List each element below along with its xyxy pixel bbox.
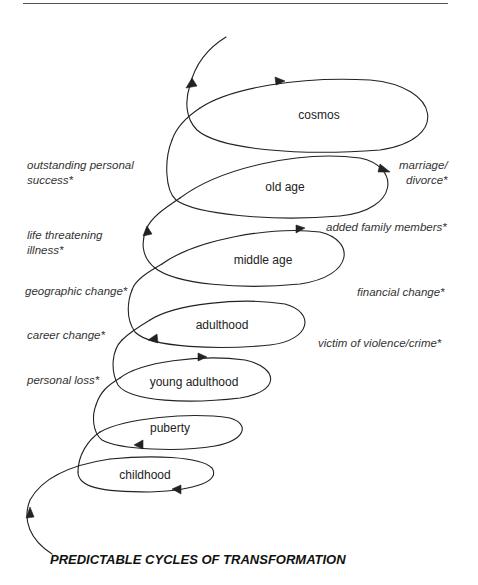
link-middle-old [146, 198, 180, 230]
stage-middle-age: middle age [234, 253, 293, 267]
stage-puberty: puberty [150, 421, 190, 435]
event-outstanding-success: outstanding personal success* [27, 158, 134, 188]
event-personal-loss: personal loss* [27, 373, 99, 388]
link-old-cosmos [172, 108, 200, 140]
event-financial-change: financial change* [357, 285, 445, 300]
arrowhead-icon [296, 225, 305, 233]
event-added-family-members: added family members* [326, 220, 447, 235]
event-life-threatening-illness: life threatening illness* [27, 228, 102, 258]
event-line: life threatening [27, 228, 102, 243]
stage-old-age: old age [265, 180, 304, 194]
stage-childhood: childhood [119, 468, 170, 482]
stage-adulthood: adulthood [196, 318, 249, 332]
event-line: divorce* [399, 173, 448, 188]
link-childhood-puberty [78, 432, 100, 472]
arrowhead-icon [198, 353, 207, 361]
diagram-title: PREDICTABLE CYCLES OF TRANSFORMATION [50, 552, 346, 567]
spiral-exit [190, 37, 226, 85]
event-line: illness* [27, 243, 102, 258]
arrowhead-icon [186, 78, 197, 88]
event-line: success* [27, 173, 134, 188]
event-line: career change* [27, 328, 105, 343]
event-victim-violence-crime: victim of violence/crime* [318, 336, 441, 351]
event-line: added family members* [326, 220, 447, 235]
event-line: outstanding personal [27, 158, 134, 173]
arrowhead-icon [143, 226, 152, 236]
event-line: financial change* [357, 285, 445, 300]
stage-cosmos: cosmos [298, 108, 339, 122]
spiral-tail [27, 459, 110, 554]
arrowhead-icon [172, 485, 181, 494]
loop-young-adulthood [113, 340, 271, 401]
stage-young-adulthood: young adulthood [150, 375, 239, 389]
event-career-change: career change* [27, 328, 105, 343]
event-line: marriage/ [399, 158, 448, 173]
event-marriage-divorce: marriage/ divorce* [399, 158, 448, 188]
arrowhead-icon [378, 164, 390, 172]
link-adulthood-middle [132, 264, 162, 290]
arrowhead-icon [148, 334, 158, 343]
event-line: personal loss* [27, 373, 99, 388]
link-young-adulthood [122, 320, 150, 340]
event-line: geographic change* [25, 284, 127, 299]
event-geographic-change: geographic change* [25, 284, 127, 299]
event-line: victim of violence/crime* [318, 336, 441, 351]
